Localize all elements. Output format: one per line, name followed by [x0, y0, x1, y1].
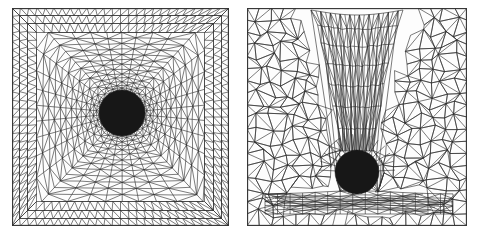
- structured-mesh-svg: [12, 8, 229, 226]
- mesh-panel-left: [12, 8, 229, 226]
- figure-root: Triangular finite-element meshes around …: [0, 0, 479, 242]
- obstacle-circle-right: [335, 150, 379, 194]
- obstacle-circle-left: [99, 90, 145, 136]
- adapted-mesh-svg: [247, 8, 467, 226]
- mesh-panel-right: [247, 8, 467, 226]
